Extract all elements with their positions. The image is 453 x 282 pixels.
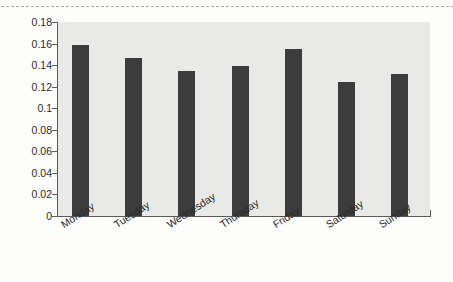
y-axis-tick-label: 0.12 xyxy=(8,82,52,93)
y-axis-tick-label: 0.04 xyxy=(8,168,52,179)
bar xyxy=(72,45,89,216)
y-axis-tick-label: 0.1 xyxy=(8,103,52,114)
bar-series xyxy=(58,22,430,216)
y-axis-tick-label: 0.14 xyxy=(8,60,52,71)
y-axis-tick-label: 0.18 xyxy=(8,17,52,28)
bar xyxy=(125,58,142,216)
bar xyxy=(338,82,355,216)
bar xyxy=(391,74,408,216)
y-axis-tick xyxy=(52,216,58,217)
y-axis-tick-label: 0.16 xyxy=(8,39,52,50)
y-axis-tick-label: 0.02 xyxy=(8,189,52,200)
x-axis-end-tick xyxy=(430,210,431,217)
y-axis-tick-label: 0 xyxy=(8,211,52,222)
bar xyxy=(285,49,302,216)
bar xyxy=(232,66,249,216)
y-axis-tick-label: 0.06 xyxy=(8,146,52,157)
bar xyxy=(178,71,195,217)
plot-area: 00.020.040.060.080.10.120.140.160.18 Mon… xyxy=(0,0,453,282)
chart-figure: 00.020.040.060.080.10.120.140.160.18 Mon… xyxy=(0,0,453,282)
y-axis-tick-label: 0.08 xyxy=(8,125,52,136)
x-axis-labels: MondayTuesdayWednesdayThursdayFridaySatu… xyxy=(58,218,430,280)
